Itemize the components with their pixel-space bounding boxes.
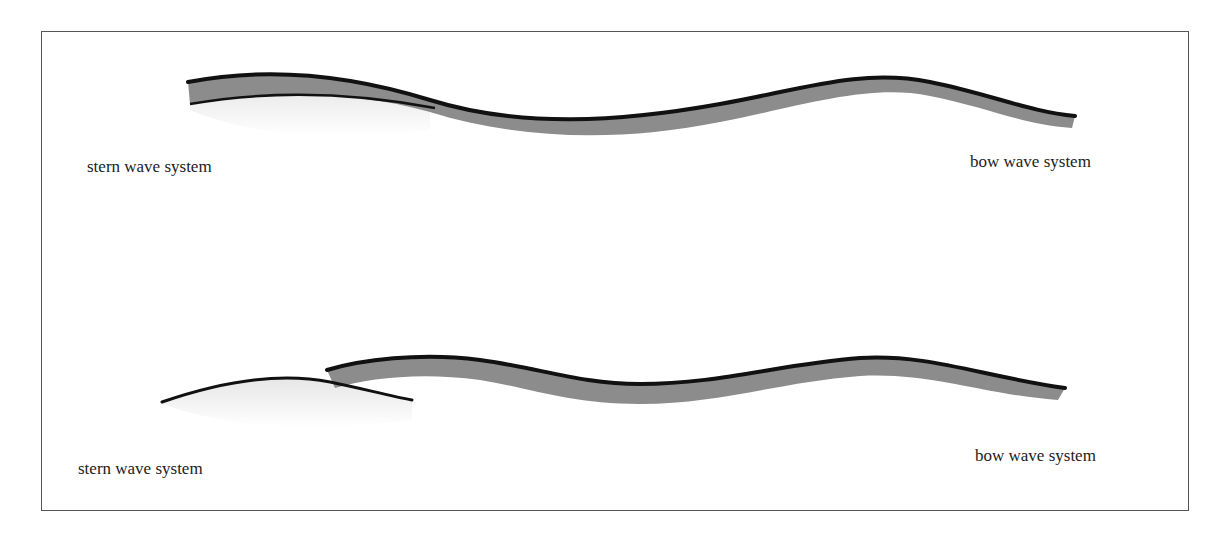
top-stern-label: stern wave system [87, 157, 212, 177]
bottom-bow-label: bow wave system [975, 446, 1096, 466]
bottom-panel [162, 357, 1065, 427]
top-bow-label: bow wave system [970, 152, 1091, 172]
bottom-stern-label: stern wave system [78, 459, 203, 479]
bottom-stern-wave-shadow [162, 378, 412, 427]
top-panel [188, 74, 1075, 136]
